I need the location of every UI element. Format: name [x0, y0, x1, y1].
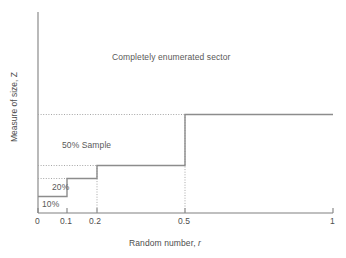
x-tick-label-0.1: 0.1	[60, 216, 72, 226]
x-axis-title-text: Random number,	[129, 238, 198, 248]
y-axis-title-container: Measure of size, Z	[6, 0, 22, 213]
x-tick-label-0: 0	[35, 216, 40, 226]
x-tick-label-0.5: 0.5	[178, 216, 190, 226]
step-function-line	[38, 115, 333, 197]
chart-plot-area	[0, 0, 346, 258]
x-tick-label-0.2: 0.2	[89, 216, 101, 226]
annotation-50-percent-sample: 50% Sample	[62, 140, 111, 150]
x-tick-label-1: 1	[330, 216, 335, 226]
annotation-20-percent: 20%	[52, 182, 69, 192]
vertical-guide-lines	[97, 115, 185, 214]
step-chart-figure: 0 0.1 0.2 0.5 1 Random number, r Measure…	[0, 0, 346, 258]
x-axis-title-variable: r	[198, 238, 201, 248]
annotation-10-percent: 10%	[42, 199, 59, 209]
y-axis-title: Measure of size, Z	[9, 72, 19, 142]
annotation-completely-enumerated-sector: Completely enumerated sector	[112, 52, 231, 62]
x-axis-title: Random number, r	[129, 238, 201, 248]
